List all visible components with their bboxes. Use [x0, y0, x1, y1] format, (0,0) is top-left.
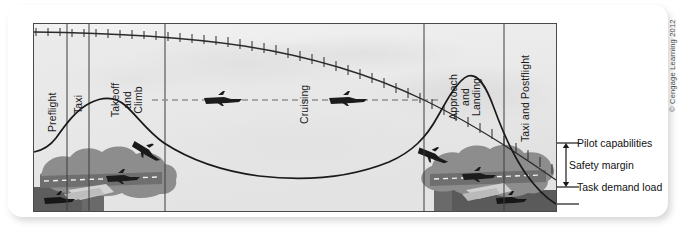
phase-label-taxi-postflight: Taxi and Postflight	[520, 55, 532, 142]
legend-baseline-tick	[557, 201, 583, 207]
legend-label-safety-margin: Safety margin	[569, 159, 634, 171]
chart-legend: Pilot capabilities Safety margin Task de…	[557, 137, 669, 199]
legend-label-pilot-capabilities: Pilot capabilities	[577, 137, 652, 149]
phase-label-takeoff-climb: Takeoff and Climb	[110, 68, 145, 132]
legend-label-task-demand-load: Task demand load	[577, 181, 662, 193]
phase-label-taxi: Taxi	[73, 95, 85, 114]
copyright-notice: © Cengage Learning 2012	[668, 19, 677, 112]
figure-card: Preflight Taxi Takeoff and Climb Cruisin…	[8, 5, 668, 217]
phase-label-approach-landing: Approach and Landing	[448, 66, 483, 128]
phase-label-preflight: Preflight	[47, 93, 59, 132]
phase-label-cruising: Cruising	[299, 85, 311, 124]
workload-chart-plot-area: Preflight Taxi Takeoff and Climb Cruisin…	[33, 23, 557, 212]
